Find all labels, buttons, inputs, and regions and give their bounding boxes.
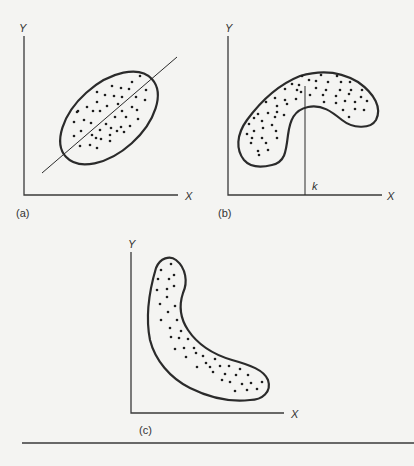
panel-b: Y X (b) k: [218, 22, 395, 219]
panel-c-y-label: Y: [128, 238, 136, 250]
panel-b-k-label: k: [312, 180, 318, 192]
panel-c-caption: (c): [139, 424, 152, 436]
panel-c-data-points: [156, 263, 264, 393]
panel-a: Y X (a): [16, 22, 193, 219]
panel-a-regression-line: [42, 57, 177, 173]
panel-a-axes: [24, 36, 178, 195]
panel-c-x-label: X: [290, 408, 299, 420]
panel-b-y-label: Y: [225, 22, 233, 34]
scatter-diagrams-figure: Y X (a): [0, 0, 414, 466]
panel-b-data-points: [246, 74, 369, 157]
panel-b-x-label: X: [386, 190, 395, 202]
panel-c: Y X (c): [128, 238, 299, 436]
panel-a-x-label: X: [184, 190, 193, 202]
panel-a-y-label: Y: [19, 22, 27, 34]
panel-b-caption: (b): [218, 207, 231, 219]
panel-a-caption: (a): [16, 207, 29, 219]
panel-b-arch-boundary: [238, 72, 378, 166]
panel-c-curve-boundary: [148, 258, 269, 401]
panel-a-ellipse-boundary: [43, 54, 175, 182]
